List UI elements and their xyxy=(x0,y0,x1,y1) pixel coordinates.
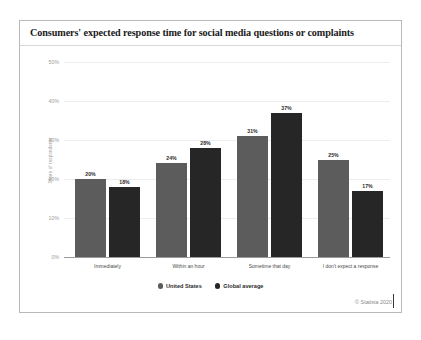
bar-global-average[interactable]: 17% xyxy=(352,191,383,257)
y-tick-label-40: 40% xyxy=(49,98,59,104)
y-tick-label-50: 50% xyxy=(49,59,59,65)
chart-legend: United States Global average xyxy=(20,283,401,289)
bar-united-states[interactable]: 25% xyxy=(318,160,349,258)
bar-value-label: 20% xyxy=(85,171,95,177)
bar-group: 24% 28% Within an hour xyxy=(151,62,226,257)
x-category-label: I don't expect a response xyxy=(313,263,388,269)
bar-united-states[interactable]: 31% xyxy=(237,136,268,257)
y-tick-label-30: 30% xyxy=(49,137,59,143)
x-category-label: Sometime that day xyxy=(232,263,307,269)
legend-item-global-average[interactable]: Global average xyxy=(215,283,264,289)
bar-global-average[interactable]: 18% xyxy=(109,187,140,257)
circle-dot-icon xyxy=(215,283,221,289)
bar-global-average[interactable]: 28% xyxy=(190,148,221,257)
legend-item-united-states[interactable]: United States xyxy=(158,283,202,289)
x-category-label: Within an hour xyxy=(151,263,226,269)
y-tick-label-10: 10% xyxy=(49,215,59,221)
bar-value-label: 24% xyxy=(166,155,176,161)
y-tick-label-0: 0% xyxy=(52,254,60,260)
bar-value-label: 17% xyxy=(362,183,372,189)
bar-value-label: 31% xyxy=(247,128,257,134)
chart-title: Consumers' expected response time for so… xyxy=(30,27,395,38)
bar-united-states[interactable]: 24% xyxy=(156,163,187,257)
bar-group: 25% 17% I don't expect a response xyxy=(313,62,388,257)
plot-area: 0% 10% 20% 30% 40% 50% 20% 18% Immediate… xyxy=(64,63,390,258)
y-tick-label-20: 20% xyxy=(49,176,59,182)
y-axis-title: Share of respondents xyxy=(46,63,56,258)
circle-dot-icon xyxy=(158,283,164,289)
bar-united-states[interactable]: 20% xyxy=(75,179,106,257)
bar-value-label: 28% xyxy=(200,140,210,146)
bar-group: 31% 37% Sometime that day xyxy=(232,62,307,257)
text-caret xyxy=(393,294,394,308)
bar-global-average[interactable]: 37% xyxy=(271,113,302,257)
x-category-label: Immediately xyxy=(70,263,145,269)
legend-label: United States xyxy=(166,283,202,289)
copyright-notice: © Statista 2020 xyxy=(355,299,392,305)
chart-card: Consumers' expected response time for so… xyxy=(19,20,402,313)
bar-value-label: 18% xyxy=(119,179,129,185)
bar-group: 20% 18% Immediately xyxy=(70,62,145,257)
x-axis-line xyxy=(64,257,390,258)
bar-value-label: 25% xyxy=(328,152,338,158)
legend-label: Global average xyxy=(223,283,263,289)
bar-value-label: 37% xyxy=(281,105,291,111)
title-divider xyxy=(20,45,401,46)
